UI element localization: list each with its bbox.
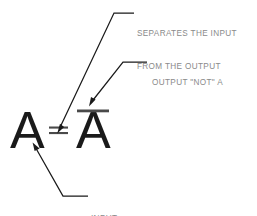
annotation-separates-line1: SEPARATES THE INPUT bbox=[137, 28, 237, 39]
annotation-input-line1: INPUT bbox=[91, 213, 117, 216]
arrowhead-separates bbox=[57, 124, 64, 134]
diagram-canvas: A A SEPARATES THE INPUT FROM bbox=[0, 0, 257, 216]
annotation-input: INPUT bbox=[91, 191, 117, 216]
output-variable-a-not: A bbox=[76, 104, 111, 156]
input-variable-a: A bbox=[10, 104, 45, 156]
annotation-output-not-a: OUTPUT "NOT" A bbox=[152, 55, 223, 110]
equals-sign bbox=[49, 127, 68, 135]
annotation-output-not-line1: OUTPUT "NOT" A bbox=[152, 77, 223, 88]
